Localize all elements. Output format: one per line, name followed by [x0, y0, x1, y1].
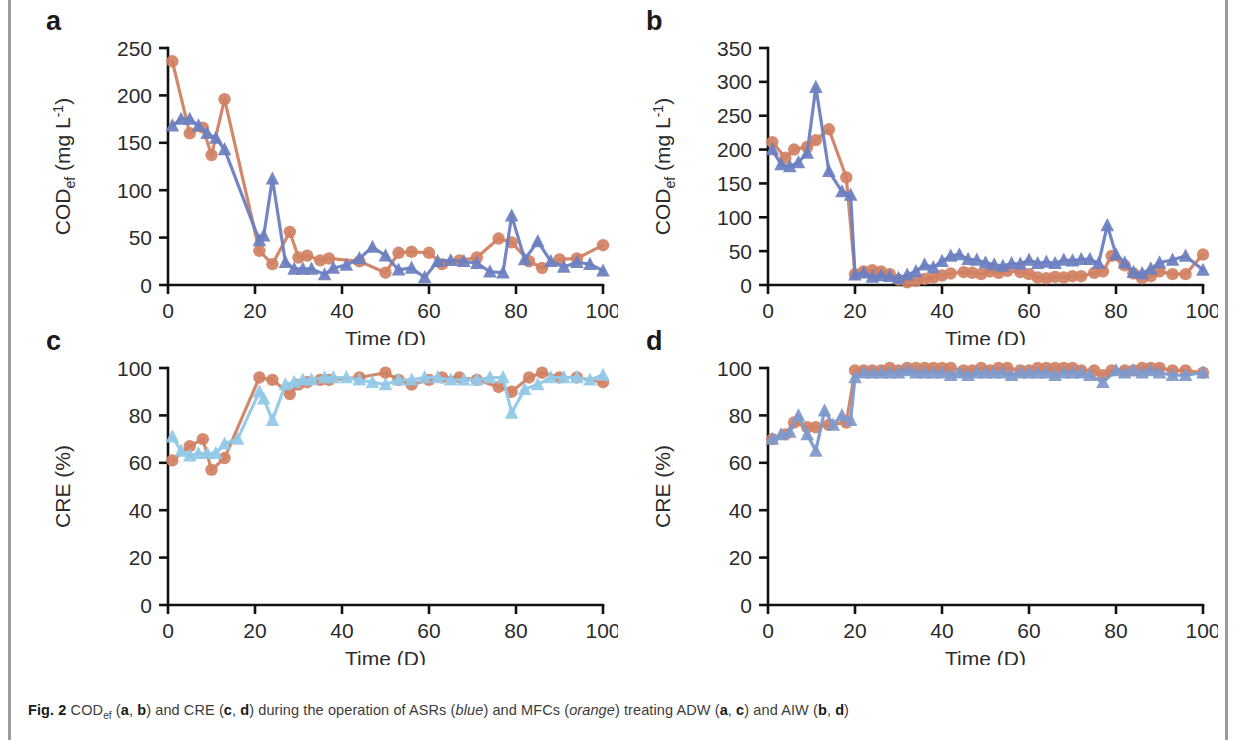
chart-panel-b: b050100150200250300350020406080100Time (…	[618, 0, 1218, 345]
x-tick-label: 0	[762, 619, 774, 642]
data-point-triangle	[1179, 248, 1193, 261]
series-asr-c	[166, 368, 610, 462]
data-point-triangle	[809, 444, 823, 457]
data-point-circle	[253, 371, 265, 383]
x-tick-label: 40	[330, 619, 353, 642]
y-tick-label: 50	[729, 240, 752, 263]
caption-panel-ref: d	[835, 702, 844, 718]
y-tick-label: 20	[129, 546, 152, 569]
y-tick-label: 300	[717, 70, 752, 93]
x-tick-label: 0	[162, 299, 174, 322]
y-tick-label: 20	[729, 546, 752, 569]
data-point-triangle	[279, 255, 293, 268]
y-tick-label: 40	[129, 499, 152, 522]
y-tick-label: 250	[117, 37, 152, 60]
data-point-circle	[197, 433, 209, 445]
data-point-circle	[253, 245, 265, 257]
data-point-triangle	[1100, 218, 1114, 231]
y-tick-label: 350	[717, 37, 752, 60]
y-tick-label: 200	[717, 138, 752, 161]
caption-text: ,	[728, 702, 736, 718]
data-point-circle	[810, 134, 822, 146]
x-tick-label: 40	[930, 619, 953, 642]
y-tick-label: 60	[729, 451, 752, 474]
x-tick-label: 100	[1185, 299, 1218, 322]
x-tick-label: 80	[1104, 299, 1127, 322]
data-point-circle	[1197, 248, 1209, 260]
data-point-triangle	[266, 413, 280, 426]
caption-panel-ref: a	[121, 702, 129, 718]
chart-svg-c: c020406080100020406080100Time (D)CRE (%)	[18, 320, 618, 665]
data-point-triangle	[822, 164, 836, 177]
right-margin-rule	[1225, 0, 1228, 740]
figure-root: a050100150200250020406080100Time (D)CODe…	[0, 0, 1236, 740]
x-tick-label: 60	[1017, 619, 1040, 642]
caption-body: CODef (a, b) and CRE (c, d) during the o…	[71, 702, 849, 718]
x-tick-label: 100	[585, 299, 618, 322]
y-axis-title: CODef (mg L-1)	[50, 98, 78, 235]
caption-color-word: blue	[456, 702, 484, 718]
data-point-triangle	[596, 368, 610, 381]
y-tick-label: 60	[129, 451, 152, 474]
x-tick-label: 80	[1104, 619, 1127, 642]
chart-panel-c: c020406080100020406080100Time (D)CRE (%)	[18, 320, 618, 665]
series-asr-b	[766, 80, 1210, 284]
y-tick-label: 150	[717, 172, 752, 195]
chart-svg-d: d020406080100020406080100Time (D)CRE (%)	[618, 320, 1218, 665]
panel-letter-d: d	[646, 326, 663, 356]
data-point-triangle	[266, 171, 280, 184]
x-axis-title: Time (D)	[945, 647, 1026, 665]
data-point-triangle	[792, 408, 806, 421]
caption-text: ) and AIW (	[744, 702, 818, 718]
panel-letter-b: b	[646, 6, 663, 36]
caption-text: ) and MFCs (	[483, 702, 569, 718]
caption-text: ) treating ADW (	[615, 702, 720, 718]
x-tick-label: 0	[762, 299, 774, 322]
data-point-circle	[536, 367, 548, 379]
x-tick-label: 0	[162, 619, 174, 642]
data-point-circle	[379, 266, 391, 278]
data-point-circle	[1179, 268, 1191, 280]
y-tick-label: 50	[129, 226, 152, 249]
x-tick-label: 20	[843, 619, 866, 642]
data-point-circle	[597, 239, 609, 251]
data-point-circle	[166, 55, 178, 67]
caption-panel-ref: b	[137, 702, 146, 718]
caption-subscript: ef	[103, 710, 112, 721]
chart-panel-a: a050100150200250020406080100Time (D)CODe…	[18, 0, 618, 345]
chart-panel-d: d020406080100020406080100Time (D)CRE (%)	[618, 320, 1218, 665]
data-point-circle	[392, 247, 404, 259]
data-point-triangle	[366, 240, 380, 253]
data-point-circle	[840, 171, 852, 183]
data-point-circle	[301, 249, 313, 261]
data-point-circle	[405, 246, 417, 258]
caption-text: ,	[827, 702, 835, 718]
y-tick-label: 100	[717, 206, 752, 229]
y-tick-label: 80	[129, 404, 152, 427]
y-tick-label: 250	[717, 104, 752, 127]
data-point-circle	[945, 267, 957, 279]
series-line	[772, 87, 1203, 278]
data-point-circle	[218, 93, 230, 105]
caption-panel-ref: a	[720, 702, 728, 718]
x-tick-label: 60	[1017, 299, 1040, 322]
y-tick-label: 100	[117, 179, 152, 202]
data-point-triangle	[505, 208, 519, 221]
caption-panel-ref: b	[818, 702, 827, 718]
data-point-circle	[266, 374, 278, 386]
caption-text: COD	[71, 702, 104, 718]
x-tick-label: 20	[243, 299, 266, 322]
y-tick-label: 0	[740, 594, 752, 617]
x-tick-label: 80	[504, 299, 527, 322]
y-axis-title: CRE (%)	[651, 445, 674, 528]
data-point-circle	[788, 143, 800, 155]
data-point-triangle	[818, 403, 832, 416]
y-axis-title: CRE (%)	[51, 445, 74, 528]
y-tick-label: 80	[729, 404, 752, 427]
x-tick-label: 40	[330, 299, 353, 322]
y-tick-label: 40	[729, 499, 752, 522]
caption-panel-ref: c	[224, 702, 232, 718]
x-tick-label: 100	[1185, 619, 1218, 642]
series-asr-d	[766, 363, 1210, 457]
data-point-circle	[1166, 268, 1178, 280]
